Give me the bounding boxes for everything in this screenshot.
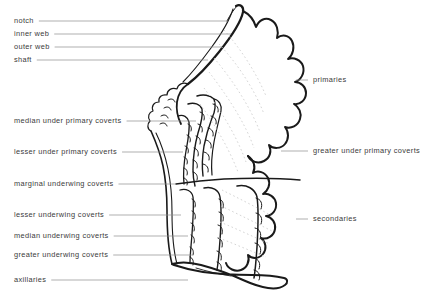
greater-under-primary-coverts-edge bbox=[197, 95, 215, 176]
label-greater-underwing-coverts: greater underwing coverts bbox=[14, 251, 108, 258]
primary-feather-tips bbox=[243, 11, 306, 162]
wing-body-margin-outer bbox=[151, 131, 172, 264]
label-marginal-underwing-coverts: marginal underwing coverts bbox=[14, 180, 113, 187]
wrist-covert-bumps bbox=[160, 99, 175, 126]
outer-primary-inner-line bbox=[183, 9, 233, 82]
median-underwing-coverts-edge bbox=[204, 187, 221, 270]
label-primaries: primaries bbox=[313, 76, 347, 83]
greater-upc-second-edge bbox=[212, 99, 222, 175]
label-inner-web: inner web bbox=[14, 30, 49, 37]
label-notch: notch bbox=[14, 17, 34, 24]
label-axillaries: axillaries bbox=[14, 276, 46, 283]
wing-anatomy-figure: notchinner webouter webshaftmedian under… bbox=[0, 0, 443, 303]
label-median-underwing-coverts: median underwing coverts bbox=[14, 232, 109, 239]
label-lesser-under-primary-coverts: lesser under primary coverts bbox=[14, 148, 117, 155]
label-lesser-underwing-coverts: lesser underwing coverts bbox=[14, 211, 104, 218]
secondary-feather-tips bbox=[226, 156, 276, 271]
label-median-under-primary-coverts: median under primary coverts bbox=[14, 117, 122, 124]
label-outer-web: outer web bbox=[14, 43, 50, 50]
outer-primary-leading-edge bbox=[188, 5, 243, 84]
label-greater-under-primary-coverts: greater under primary coverts bbox=[313, 147, 420, 154]
notch-detail bbox=[227, 5, 238, 21]
label-secondaries: secondaries bbox=[313, 215, 357, 222]
lesser-underwing-coverts-edge bbox=[180, 189, 193, 262]
label-shaft: shaft bbox=[14, 56, 32, 63]
